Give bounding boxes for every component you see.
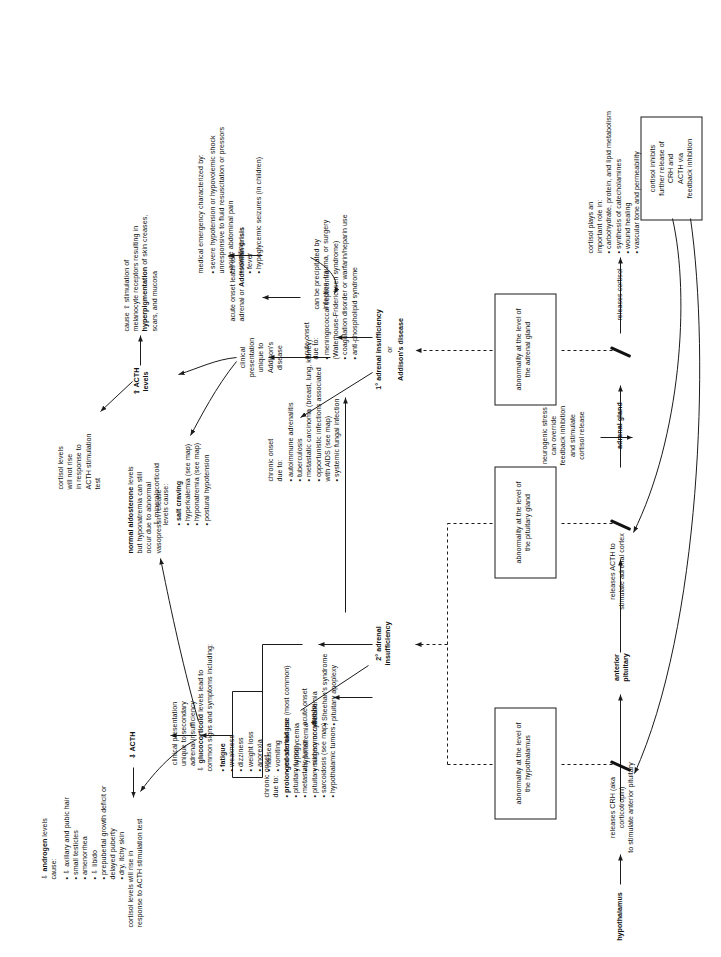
axis-node-hypothalamus: hypothalamus <box>615 885 624 947</box>
list-item: • coagulation disorder or warfarin/hepar… <box>340 163 349 359</box>
list-item: • hypoglycemia <box>292 611 301 771</box>
list-item: • anorexia <box>255 611 264 771</box>
androgen-list: • ⇩ axillary and pubic hair• small testi… <box>62 749 126 879</box>
list-item: • prepubertal growth deficit or delayed … <box>99 749 117 879</box>
primary-chronic-onset-heading: chronic onset due to: <box>266 417 284 481</box>
list-item: • amenorrhea <box>80 749 89 879</box>
list-item: • autoimmune adrenalitis <box>286 281 295 481</box>
cortisol-will-not-rise-note: cortisol levels will not rise in respons… <box>56 405 102 489</box>
list-item: • weakness <box>227 611 236 771</box>
list-item: • sarcoidosis (see map) <box>319 637 328 797</box>
list-item: • mood changes <box>282 611 291 771</box>
lesion-label-hypothalamus: abnormality at the level of the hypothal… <box>514 711 532 815</box>
acth-high-label: ⇧ ACTH levels <box>132 361 150 401</box>
list-item: • hyperkalemia (see map) <box>183 395 192 525</box>
list-item: • fatigue <box>218 611 227 771</box>
acth-low-label: ⇩ ACTH <box>128 723 137 767</box>
list-item: • severe hypotension or hypovolemic shoc… <box>208 83 226 273</box>
glucocorticoid-symptom-list: • fatigue• weakness• dizziness• weight l… <box>218 611 319 771</box>
list-item: • weight loss <box>246 611 255 771</box>
androgen-heading: ⇩ androgen levelscause: <box>40 769 58 879</box>
list-item: • vomiting <box>273 611 282 771</box>
feedback-inhibition-label: cortisol inhibits further release of CRH… <box>648 120 694 216</box>
axis-step-acth: releases ACTH to stimulate adrenal corte… <box>608 525 626 617</box>
cortisol-roles-note: cortisol plays an important role in: • c… <box>586 77 641 253</box>
lesion-label-adrenal: abnormality at the level of the adrenal … <box>514 297 532 401</box>
list-item: • salt craving <box>174 395 183 525</box>
lesion-label-pituitary: abnormality at the level of the pituitar… <box>514 470 532 574</box>
node-secondary-adrenal-insufficiency: 2° adrenal insufficiency <box>374 607 392 679</box>
list-item: • ⇩ libido <box>90 749 99 879</box>
mineralocorticoid-heading: ⇩ mineralocorticoidlevels cause: <box>152 415 170 525</box>
clinical-presentation-primary-heading: clinical presentation unique to Addison'… <box>238 323 284 391</box>
list-item: • vomiting <box>236 83 245 273</box>
addisonian-crisis-desc: medical emergency characterized by: <box>196 93 205 273</box>
node-primary-adrenal-insufficiency-line1: 1° adrenal insufficiency <box>374 289 383 409</box>
axis-step-cortisol: releases cortisol <box>615 259 624 329</box>
axis-step-crh: releases CRH (aka corticotropin) to stim… <box>608 761 636 853</box>
node-primary-adrenal-insufficiency-or: or <box>385 289 394 409</box>
list-item: • postural hypotension <box>202 395 211 525</box>
list-item: • fever <box>245 83 254 273</box>
list-item: • small testicles <box>71 749 80 879</box>
axis-node-adrenal-gland: adrenal gland <box>615 387 624 463</box>
cortisol-will-rise-note: cortisol levels will rise in response to… <box>126 801 144 927</box>
list-item: • hyponatremia <box>301 611 310 771</box>
node-primary-addisons-disease: Addison's disease <box>396 289 405 409</box>
mineralocorticoid-list: • salt craving• hyperkalemia (see map)• … <box>174 395 211 525</box>
concept-map-canvas: hypothalamus releases CRH (aka corticotr… <box>0 0 721 957</box>
list-item: • dizziness <box>236 611 245 771</box>
axis-node-anterior-pituitary: anterior pituitary <box>612 643 630 691</box>
crisis-precipitated-note: can be precipitated by infection, trauma… <box>312 197 330 309</box>
glucocorticoid-heading: ⇩ glucocorticoid levels lead tocommon si… <box>196 611 214 771</box>
list-item: • mild normocytic anemia <box>310 611 319 771</box>
list-item: • hypoglycemic seizures (in children) <box>254 83 263 273</box>
clinical-presentation-secondary-heading: clinical presentation unique to secondar… <box>170 685 198 781</box>
list-item: • dry, itchy skin <box>117 749 126 879</box>
list-item: • ⇩ axillary and pubic hair <box>62 749 71 879</box>
list-item: • acute abdominal pain <box>226 83 235 273</box>
axis-block-adrenal <box>609 346 630 357</box>
rotated-page-wrapper: hypothalamus releases CRH (aka corticotr… <box>0 0 721 957</box>
list-item: • hyponatremia (see map) <box>192 395 201 525</box>
melanocyte-hyperpigmentation-note: cause ⇧ stimulation ofmelanocyte recepto… <box>122 163 159 331</box>
list-item: • nausea <box>264 611 273 771</box>
addisonian-crisis-list: • severe hypotension or hypovolemic shoc… <box>208 83 263 273</box>
list-item: • anti-phospholipid syndrome <box>350 163 359 359</box>
list-item: • hypothalamic tumors <box>328 637 337 797</box>
